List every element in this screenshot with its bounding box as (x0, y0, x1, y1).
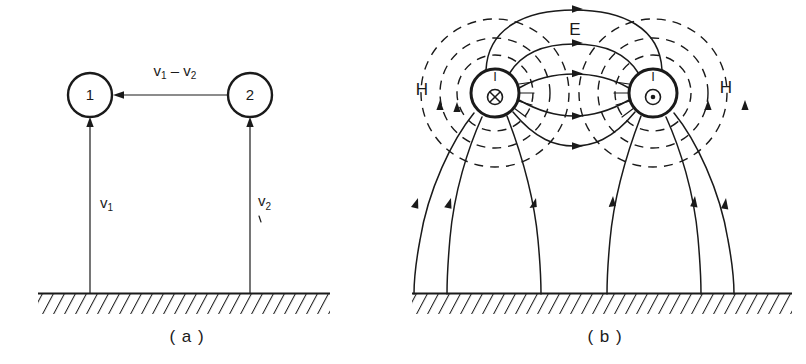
e-stub-r3 (616, 101, 630, 105)
panel-a-caption: ( a ) (169, 327, 204, 346)
node-label-2: 2 (246, 86, 254, 103)
voltage-arrow-v1 (86, 117, 93, 293)
arrow-head-down (444, 198, 451, 209)
circle-dot-icon (646, 90, 661, 105)
ground-hatching (38, 294, 330, 314)
svg-text:v2: v2 (258, 192, 272, 212)
arrow-head-up (246, 117, 253, 127)
arrow-head-down (530, 198, 537, 208)
arrow-head-up (86, 117, 93, 127)
panel-b: I I E (411, 5, 792, 346)
arrow-head-right (572, 142, 583, 149)
svg-text:v1: v1 (100, 194, 114, 213)
e-line-left-2 (447, 117, 482, 294)
panel-b-caption: ( b ) (587, 327, 622, 346)
electric-field-label: E (569, 20, 580, 39)
circle-cross-icon (488, 90, 503, 105)
node-circle-1[interactable]: 1 (68, 73, 112, 117)
h-field-arrowheads-left (436, 100, 460, 112)
panel-a-ground-plane (38, 294, 330, 315)
magnetic-field-label-left: H (416, 80, 428, 99)
panel-a: 1 2 v1 – v2 v1 v2 (38, 62, 330, 347)
current-label-left: I (493, 69, 497, 84)
magnetic-field-label-right: H (720, 78, 732, 97)
differential-voltage-label: v1 – v2 (154, 62, 197, 81)
v1-sub: 1 (108, 202, 114, 213)
v2-tick-mark (259, 216, 261, 222)
panel-b-ground-plane (412, 294, 792, 315)
differential-arrow (113, 91, 227, 99)
arrow-head-right (572, 39, 583, 46)
voltage-label-v1: v1 (100, 194, 114, 213)
voltage-label-v2: v2 (258, 192, 272, 222)
arrow-head-left (113, 91, 124, 99)
current-label-text: I (493, 69, 497, 84)
current-label-right: I (651, 69, 655, 84)
ground-hatching (412, 294, 792, 314)
arrow-head-right (572, 5, 583, 12)
arrow-head-up (721, 198, 728, 209)
node-label-1: 1 (86, 86, 94, 103)
arrow-head-right (572, 70, 583, 77)
v2-sub: 2 (266, 201, 272, 212)
figure-canvas: 1 2 v1 – v2 v1 v2 (0, 0, 806, 364)
conductor-left[interactable]: I (471, 69, 519, 117)
e-line-left-1 (414, 113, 474, 294)
e-stub-l3 (518, 101, 532, 105)
svg-text:v1 – v2: v1 – v2 (154, 62, 197, 81)
diff-sub-2: 2 (191, 70, 197, 81)
current-label-text: I (651, 69, 655, 84)
arrow-head-down (411, 198, 418, 209)
voltage-arrow-v2 (246, 117, 253, 293)
node-circle-2[interactable]: 2 (228, 73, 272, 117)
conductor-right[interactable]: I (629, 69, 677, 117)
figure-root: 1 2 v1 – v2 v1 v2 (0, 0, 806, 364)
arrow-head-up (609, 196, 616, 207)
